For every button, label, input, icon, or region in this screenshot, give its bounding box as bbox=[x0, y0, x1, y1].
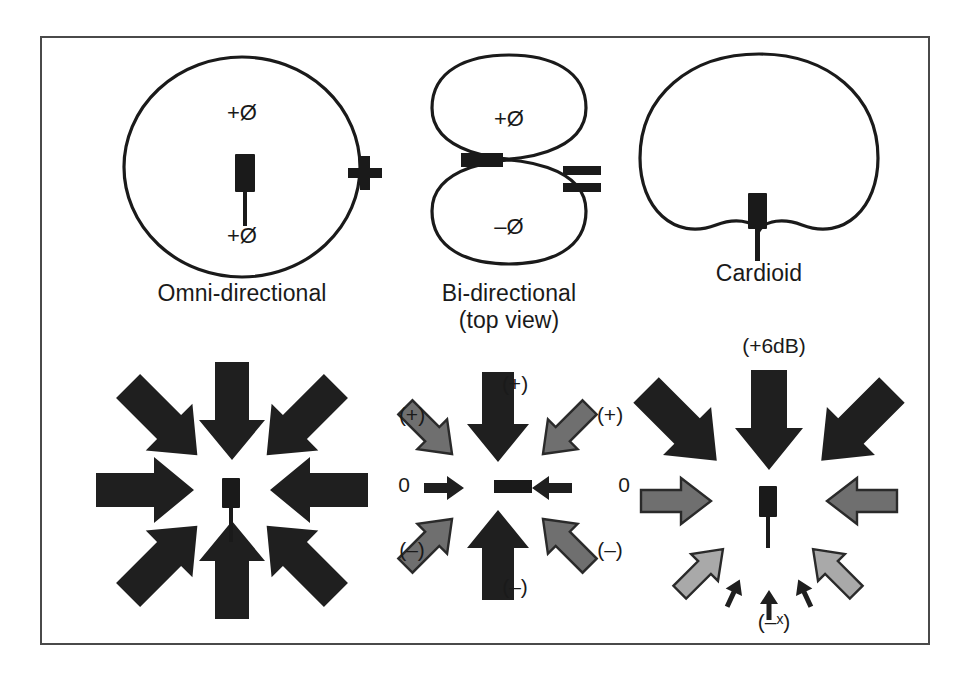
cardioid-arrow-tiny-right bbox=[790, 576, 819, 611]
cardioid-arrow-ne bbox=[797, 366, 916, 485]
bidir-label-top: (+) bbox=[460, 372, 570, 396]
diagram-frame: +Ø +Ø Omni-directional +Ø –Ø Bi-directio… bbox=[40, 36, 930, 645]
bidirectional-arrow-mic-capsule-icon bbox=[494, 480, 532, 493]
omni-phase-bottom: +Ø bbox=[192, 223, 292, 249]
cardioid-arrow-w bbox=[641, 478, 711, 524]
bidirectional-phase-top: +Ø bbox=[459, 106, 559, 132]
omni-caption: Omni-directional bbox=[87, 280, 397, 307]
bidir-label-left: 0 bbox=[384, 473, 424, 497]
cardioid-arrow-mic-capsule-icon bbox=[759, 486, 779, 548]
omni-arrow-n bbox=[199, 362, 265, 460]
cardioid-arrow-tiny-left bbox=[719, 576, 748, 611]
bidirectional-mic-capsule-icon bbox=[461, 153, 503, 167]
cardioid-caption: Cardioid bbox=[649, 260, 869, 287]
bidirectional-caption: Bi-directional bbox=[394, 280, 624, 307]
omni-phase-top: +Ø bbox=[192, 100, 292, 126]
bidir-arrow-w bbox=[424, 476, 464, 500]
cardioid-arrow-n bbox=[735, 370, 803, 470]
cardioid-arrow-sw bbox=[666, 536, 736, 606]
cardioid-label-top: (+6dB) bbox=[694, 334, 854, 358]
bidir-label-top-left: (+) bbox=[372, 403, 452, 427]
bidir-arrow-e bbox=[532, 476, 572, 500]
cardioid-arrow-e bbox=[827, 478, 897, 524]
omni-arrow-w bbox=[96, 457, 194, 523]
bidirectional-caption-subtitle: (top view) bbox=[394, 307, 624, 334]
cardioid-arrow-nw bbox=[622, 366, 741, 485]
equals-operator-icon bbox=[563, 166, 601, 192]
omni-mic-capsule-icon bbox=[235, 154, 257, 226]
omni-arrow-e bbox=[270, 457, 368, 523]
cardioid-arrow-se bbox=[800, 536, 870, 606]
omni-arrow-mic-capsule-icon bbox=[222, 478, 242, 542]
plus-operator-icon bbox=[348, 156, 382, 190]
cardioid-mic-capsule-icon bbox=[748, 193, 770, 261]
bidirectional-phase-bottom: –Ø bbox=[459, 214, 559, 240]
bidir-label-bottom-left: (–) bbox=[372, 538, 452, 562]
cardioid-label-bottom: (–ˣ) bbox=[694, 610, 854, 634]
bidir-label-bottom: (–) bbox=[460, 575, 570, 599]
